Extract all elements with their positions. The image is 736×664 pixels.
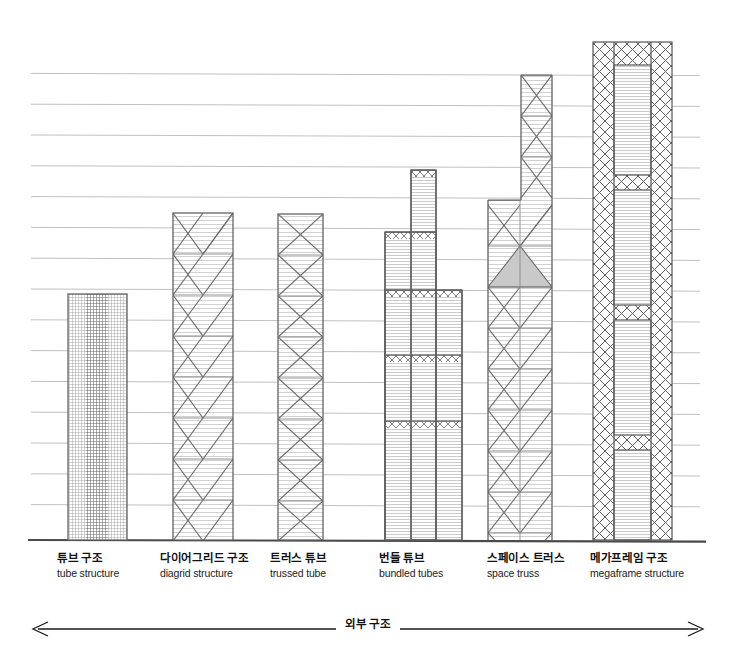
label-en: bundled tubes: [379, 567, 443, 581]
building-bundled-tubes: [385, 170, 462, 540]
label-en: trussed tube: [270, 567, 326, 581]
axis-caption: 외부 구조: [0, 615, 736, 631]
label-space-truss: 스페이스 트러스 space truss: [487, 551, 565, 581]
label-en: megaframe structure: [590, 567, 684, 581]
label-ko: 다이어그리드 구조: [160, 551, 249, 566]
label-ko: 튜브 구조: [57, 551, 119, 566]
label-trussed-tube: 트러스 튜브 trussed tube: [270, 551, 326, 581]
building-space-truss: [488, 75, 552, 554]
building-trussed-tube: [278, 214, 323, 541]
category-labels: 튜브 구조 tube structure 다이어그리드 구조 diagrid s…: [0, 551, 736, 597]
label-megaframe-structure: 메가프레임 구조 megaframe structure: [590, 551, 684, 581]
building-megaframe-structure: [593, 42, 672, 540]
building-tube-structure: [68, 294, 127, 540]
building-diagrid-structure: [173, 213, 233, 541]
label-en: diagrid structure: [160, 567, 249, 581]
figure-stage: 튜브 구조 tube structure 다이어그리드 구조 diagrid s…: [0, 0, 736, 664]
label-ko: 메가프레임 구조: [590, 551, 684, 566]
label-tube-structure: 튜브 구조 tube structure: [57, 551, 119, 581]
label-en: tube structure: [57, 567, 119, 581]
label-ko: 트러스 튜브: [270, 551, 326, 566]
axis-caption-text: 외부 구조: [336, 618, 400, 630]
label-ko: 번들 튜브: [379, 551, 443, 566]
label-ko: 스페이스 트러스: [487, 551, 565, 566]
label-en: space truss: [487, 567, 565, 581]
label-bundled-tubes: 번들 튜브 bundled tubes: [379, 551, 443, 581]
label-diagrid-structure: 다이어그리드 구조 diagrid structure: [160, 551, 249, 581]
